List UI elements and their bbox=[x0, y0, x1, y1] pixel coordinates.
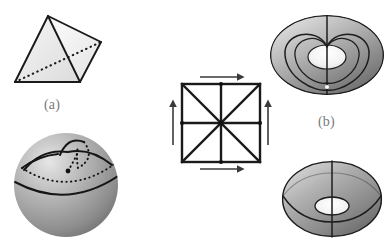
torus-top-marker bbox=[325, 85, 329, 89]
square-node-bottom bbox=[219, 160, 223, 164]
sphere-vertex-node bbox=[66, 169, 71, 174]
square-node-top bbox=[219, 82, 223, 86]
caption-a: (a) bbox=[44, 97, 60, 113]
square-node-left bbox=[180, 121, 184, 125]
torus-bottom bbox=[282, 161, 382, 237]
tetrahedron bbox=[15, 16, 101, 82]
identified-square bbox=[173, 77, 268, 169]
square-node-right bbox=[258, 121, 262, 125]
caption-b: (b) bbox=[318, 114, 335, 130]
torus-top bbox=[270, 15, 384, 95]
triangulated-sphere bbox=[14, 133, 118, 237]
square-node-center bbox=[219, 121, 223, 125]
